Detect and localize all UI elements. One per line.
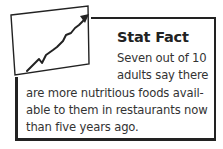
callout-text-line: adults say there — [117, 68, 208, 82]
callout-text-line: Seven out of 10 — [117, 51, 207, 65]
trending-up-chart-icon — [9, 3, 91, 77]
callout-text-line: able to them in restaurants now — [26, 103, 208, 117]
callout-text-line: are more nutritious foods avail- — [26, 86, 204, 100]
callout-text-line: than five years ago. — [26, 120, 139, 134]
callout-title: Stat Fact — [117, 29, 189, 45]
